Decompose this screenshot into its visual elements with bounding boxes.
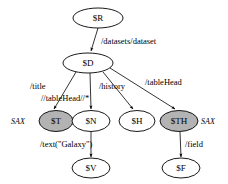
- node-h[interactable]: $H: [119, 111, 155, 132]
- edge-label-tablehead: /tableHead: [145, 77, 183, 87]
- graph-canvas: $R$D$T$N$H$TH$V$F /datasets/dataset/titl…: [0, 0, 228, 184]
- edge-th-to-f: [180, 132, 181, 157]
- edge-label-datasets: /datasets/dataset: [101, 36, 157, 46]
- edge-label-field: /field: [185, 139, 204, 149]
- edge-label-text: /text("Galaxy"): [40, 139, 92, 149]
- node-r[interactable]: $R: [73, 8, 123, 28]
- node-label-n: $N: [86, 116, 98, 126]
- node-t[interactable]: $T: [39, 111, 73, 132]
- annotation-sax-left: SAX: [11, 117, 26, 126]
- edge-labels-layer: /datasets/dataset/title//tableHead//*/hi…: [30, 36, 204, 149]
- node-label-th: $TH: [171, 116, 188, 126]
- edge-d-to-n: [90, 73, 91, 109]
- edge-d-to-t: [54, 72, 76, 109]
- node-th[interactable]: $TH: [160, 111, 198, 132]
- node-v[interactable]: $V: [72, 158, 110, 178]
- node-d[interactable]: $D: [63, 53, 113, 73]
- node-label-v: $V: [86, 163, 98, 173]
- node-label-t: $T: [51, 116, 62, 126]
- edge-label-title: /title: [30, 81, 46, 91]
- node-f[interactable]: $F: [162, 158, 200, 178]
- node-label-f: $F: [176, 163, 186, 173]
- edge-label-history: /history: [99, 81, 126, 91]
- edge-r-to-d: [91, 28, 98, 51]
- node-n[interactable]: $N: [72, 111, 110, 132]
- node-label-d: $D: [83, 58, 95, 68]
- xpath-tree-diagram: $R$D$T$N$H$TH$V$F /datasets/dataset/titl…: [0, 0, 228, 184]
- node-label-h: $H: [132, 116, 144, 126]
- node-label-r: $R: [93, 13, 104, 23]
- annotation-sax-right: SAX: [201, 117, 216, 126]
- edge-label-tablehead2: //tableHead//*: [41, 93, 89, 103]
